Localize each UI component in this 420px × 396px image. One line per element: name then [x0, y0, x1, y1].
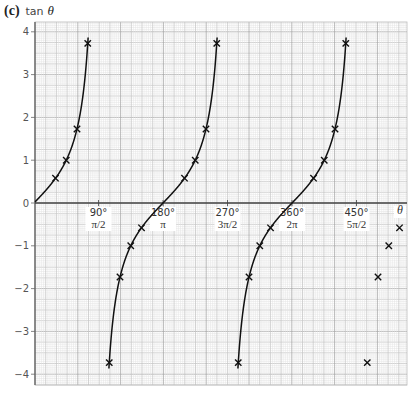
y-tick-label: 0	[23, 198, 29, 209]
x-tick-radian-label: π/2	[91, 218, 105, 230]
y-axis-ticks: 43210−1−2−3−4	[14, 26, 35, 379]
y-tick-label: 2	[23, 112, 29, 123]
y-tick-label: −2	[14, 283, 29, 294]
y-tick-label: −3	[14, 326, 29, 337]
x-tick-degree-label: 90°	[90, 207, 108, 218]
x-tick-radian-label: 5π/2	[347, 218, 367, 230]
x-tick-degree-label: 450°	[344, 207, 368, 218]
x-tick-radian-label: 2π	[286, 218, 298, 230]
tan-graph: 43210−1−2−3−4 90°π/2180°π270°3π/2360°2π4…	[0, 0, 420, 396]
x-tick-degree-label: 270°	[215, 207, 239, 218]
x-tick-radian-label: π	[160, 218, 166, 230]
y-tick-label: −4	[14, 369, 29, 380]
x-axis-label: θ	[397, 203, 403, 217]
x-tick-radian-label: 3π/2	[218, 218, 238, 230]
y-tick-label: 4	[23, 26, 29, 37]
y-tick-label: 1	[23, 155, 29, 166]
y-tick-label: 3	[23, 69, 29, 80]
y-tick-label: −1	[14, 240, 29, 251]
